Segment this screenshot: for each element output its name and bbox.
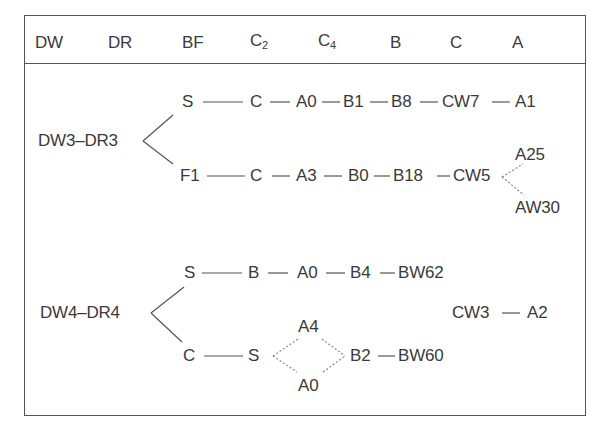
column-header-c4-base: C — [318, 31, 330, 50]
diagram-frame — [24, 15, 586, 416]
node: B0 — [348, 166, 368, 186]
node: CW7 — [442, 92, 479, 112]
node: A0 — [296, 92, 316, 112]
node: S — [184, 263, 195, 283]
fork-node-upper: A4 — [298, 317, 318, 337]
node: C — [250, 92, 262, 112]
node: A0 — [297, 263, 317, 283]
column-header-dr: DR — [108, 33, 132, 53]
node: S — [248, 346, 259, 366]
node: B1 — [343, 92, 363, 112]
node: B8 — [391, 92, 411, 112]
column-header-c4-subscript: 4 — [330, 39, 336, 51]
fork-node-upper: A25 — [515, 145, 545, 165]
node: BW60 — [398, 346, 444, 366]
root-node-dw3-dr3: DW3–DR3 — [38, 131, 118, 151]
node: B — [248, 263, 259, 283]
node: F1 — [180, 166, 199, 186]
node: B2 — [350, 346, 370, 366]
header-divider — [24, 63, 586, 64]
column-header-a: A — [512, 33, 523, 53]
node: S — [182, 92, 193, 112]
node: C — [250, 166, 262, 186]
root-node-dw4-dr4: DW4–DR4 — [40, 303, 120, 323]
node: CW5 — [453, 166, 490, 186]
node: A1 — [515, 92, 535, 112]
column-header-b: B — [390, 33, 401, 53]
node: A2 — [527, 303, 547, 323]
fork-node-lower: A0 — [298, 376, 318, 396]
column-header-c2: C2 — [250, 31, 268, 55]
fork-node-lower: AW30 — [515, 198, 560, 218]
column-header-dw: DW — [35, 33, 63, 53]
node: B18 — [393, 166, 423, 186]
column-header-bf: BF — [182, 33, 203, 53]
column-header-c2-subscript: 2 — [262, 39, 268, 51]
column-header-c: C — [450, 33, 462, 53]
node: CW3 — [452, 303, 489, 323]
node: A3 — [296, 166, 316, 186]
node: BW62 — [398, 263, 444, 283]
node: B4 — [350, 263, 370, 283]
column-header-c4: C4 — [318, 31, 336, 55]
node: C — [183, 346, 195, 366]
column-header-c2-base: C — [250, 31, 262, 50]
